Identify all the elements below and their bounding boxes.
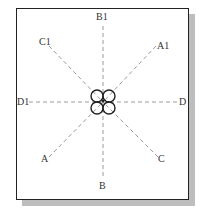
line-c1 bbox=[49, 46, 103, 102]
label-b1: B1 bbox=[96, 12, 108, 22]
line-a bbox=[49, 102, 103, 157]
line-a1 bbox=[103, 46, 156, 102]
label-d1: D1 bbox=[17, 97, 29, 107]
label-c: C bbox=[158, 154, 165, 164]
label-d: D bbox=[179, 97, 186, 107]
label-c1: C1 bbox=[39, 37, 51, 47]
line-c bbox=[103, 102, 158, 157]
label-b: B bbox=[99, 181, 106, 191]
label-a1: A1 bbox=[157, 41, 169, 51]
label-a: A bbox=[41, 154, 48, 164]
circle-bottom-left bbox=[91, 102, 103, 114]
circle-bottom-right bbox=[103, 102, 115, 114]
